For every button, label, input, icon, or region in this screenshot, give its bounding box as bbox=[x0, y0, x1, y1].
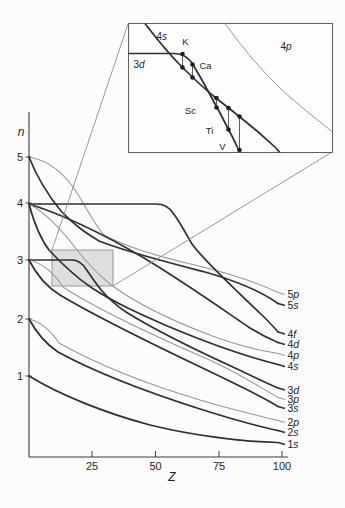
orbital-label-3s: 3s bbox=[288, 402, 300, 414]
y-tick-label-2: 2 bbox=[17, 313, 23, 325]
dot-Sc-upper bbox=[214, 96, 219, 101]
orbital-label-2s: 2s bbox=[288, 426, 300, 438]
inset-orbital-label-3d: 3d bbox=[134, 59, 146, 70]
element-label-V: V bbox=[219, 141, 226, 152]
orbital-label-1s: 1s bbox=[288, 438, 300, 450]
y-tick-label-3: 3 bbox=[17, 254, 23, 266]
element-label-Sc: Sc bbox=[185, 105, 196, 116]
dot-Ti-upper bbox=[226, 106, 231, 111]
dot-Sc-lower bbox=[214, 105, 219, 110]
dot-Ca-upper bbox=[190, 62, 195, 67]
orbital-label-4s: 4s bbox=[288, 360, 300, 372]
dot-Ca-lower bbox=[190, 75, 195, 80]
x-axis-title: Z bbox=[167, 470, 176, 484]
x-tick-label-75: 75 bbox=[213, 460, 225, 472]
dot-V-lower bbox=[237, 148, 242, 153]
x-tick-label-100: 100 bbox=[273, 460, 291, 472]
x-tick-label-50: 50 bbox=[149, 460, 161, 472]
element-label-Ca: Ca bbox=[199, 60, 212, 71]
inset-orbital-label-4p: 4p bbox=[281, 41, 293, 52]
y-tick-label-4: 4 bbox=[17, 197, 23, 209]
orbital-label-5s: 5s bbox=[288, 299, 300, 311]
y-axis-title: n bbox=[18, 125, 25, 139]
y-tick-label-1: 1 bbox=[17, 370, 23, 382]
element-label-Ti: Ti bbox=[206, 125, 214, 136]
inset-orbital-label-4s: 4s bbox=[157, 31, 168, 42]
element-label-K: K bbox=[182, 36, 189, 47]
x-tick-label-25: 25 bbox=[86, 460, 98, 472]
y-tick-label-5: 5 bbox=[17, 151, 23, 163]
dot-K-lower bbox=[180, 65, 185, 70]
dot-Ti-lower bbox=[226, 127, 231, 132]
dot-V-upper bbox=[237, 114, 242, 119]
orbital-quantum-number-chart: 54321255075100nZ5p5s4f4d4p4s3d3p3s2p2s1s… bbox=[0, 0, 345, 508]
figure-page: 54321255075100nZ5p5s4f4d4p4s3d3p3s2p2s1s… bbox=[0, 0, 345, 508]
dot-K-upper bbox=[180, 52, 185, 57]
